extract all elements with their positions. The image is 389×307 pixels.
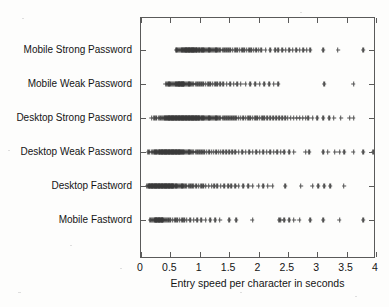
x-tick-top-5 <box>288 18 289 23</box>
data-point <box>210 218 212 223</box>
y-tick-right-4 <box>369 186 374 187</box>
data-point <box>322 116 324 121</box>
data-point <box>252 184 254 189</box>
data-point <box>262 150 264 155</box>
x-tick-bottom-6 <box>317 252 318 257</box>
data-point <box>353 82 355 87</box>
x-tick-bottom-8 <box>376 252 377 257</box>
data-point <box>333 116 335 121</box>
data-point <box>299 218 301 223</box>
data-point <box>249 82 251 87</box>
data-point <box>362 150 364 155</box>
data-point <box>273 150 275 155</box>
x-tick-top-6 <box>317 18 318 23</box>
plot-frame <box>140 17 375 258</box>
y-tick-right-0 <box>369 50 374 51</box>
data-point <box>308 116 310 121</box>
data-point <box>197 218 199 223</box>
data-point <box>252 218 254 223</box>
y-tick-label-4: Desktop Fastword <box>0 180 132 191</box>
y-tick-label-3: Desktop Weak Password <box>0 146 132 157</box>
data-point <box>293 218 295 223</box>
x-tick-top-2 <box>200 18 201 23</box>
x-tick-top-3 <box>229 18 230 23</box>
x-tick-label-0: 0 <box>137 261 143 273</box>
data-point <box>265 48 267 53</box>
data-point <box>334 150 336 155</box>
data-point <box>186 218 188 223</box>
data-point <box>322 48 324 53</box>
data-point <box>309 218 311 223</box>
data-point <box>284 184 286 189</box>
x-axis-title: Entry speed per character in seconds <box>140 277 375 289</box>
data-point <box>349 116 351 121</box>
x-tick-label-2: 1 <box>196 261 202 273</box>
data-point <box>292 48 294 53</box>
x-tick-top-0 <box>141 18 142 23</box>
data-point <box>300 184 302 189</box>
data-point <box>353 150 355 155</box>
data-point <box>228 218 230 223</box>
data-point <box>255 150 257 155</box>
data-point <box>302 48 304 53</box>
y-tick-label-text: Mobile Fastword <box>59 214 132 225</box>
data-point <box>288 150 290 155</box>
data-point <box>258 184 260 189</box>
data-point <box>273 82 275 87</box>
data-point <box>284 150 286 155</box>
data-point <box>237 82 239 87</box>
y-tick-right-3 <box>369 152 374 153</box>
y-tick-label-text: Mobile Weak Password <box>28 78 132 89</box>
x-tick-top-4 <box>259 18 260 23</box>
data-point <box>272 184 274 189</box>
data-point <box>240 82 242 87</box>
y-tick-label-text: Mobile Strong Password <box>24 44 132 55</box>
data-point <box>295 48 297 53</box>
data-point <box>259 82 261 87</box>
y-tick-label-text: Desktop Strong Password <box>16 112 132 123</box>
data-point <box>190 218 192 223</box>
data-point <box>264 82 266 87</box>
x-tick-label-4: 2 <box>255 261 261 273</box>
data-point <box>337 48 339 53</box>
data-point <box>327 150 329 155</box>
y-tick-left-5 <box>141 220 146 221</box>
x-tick-label-1: 0.5 <box>162 261 177 273</box>
data-point <box>266 150 268 155</box>
data-point <box>231 184 233 189</box>
y-tick-right-5 <box>369 220 374 221</box>
data-point <box>238 150 240 155</box>
data-point <box>214 218 216 223</box>
data-point <box>340 116 342 121</box>
data-point <box>339 150 341 155</box>
x-tick-label-5: 2.5 <box>280 261 295 273</box>
data-point <box>285 48 287 53</box>
y-tick-label-text: Desktop Fastword <box>51 180 132 191</box>
data-point <box>268 82 270 87</box>
plot-area <box>141 18 374 257</box>
x-tick-bottom-4 <box>259 252 260 257</box>
data-point <box>318 184 320 189</box>
y-tick-label-5: Mobile Fastword <box>0 214 132 225</box>
data-point <box>267 184 269 189</box>
data-point <box>235 218 237 223</box>
x-tick-bottom-0 <box>141 252 142 257</box>
y-tick-left-3 <box>141 152 146 153</box>
data-point <box>254 82 256 87</box>
data-point <box>308 150 310 155</box>
figure-strip-plot: Mobile Strong Password Mobile Weak Passw… <box>0 0 389 307</box>
x-tick-label-3: 1.5 <box>221 261 236 273</box>
data-point <box>316 116 318 121</box>
data-point <box>309 48 311 53</box>
y-tick-right-2 <box>369 118 374 119</box>
data-point <box>262 184 264 189</box>
y-tick-label-1: Mobile Weak Password <box>0 78 132 89</box>
data-point <box>329 184 331 189</box>
y-tick-label-2: Desktop Strong Password <box>0 112 132 123</box>
x-tick-top-1 <box>170 18 171 23</box>
data-point <box>261 48 263 53</box>
x-tick-top-7 <box>347 18 348 23</box>
y-tick-right-1 <box>369 84 374 85</box>
data-point <box>284 218 286 223</box>
data-point <box>343 150 345 155</box>
